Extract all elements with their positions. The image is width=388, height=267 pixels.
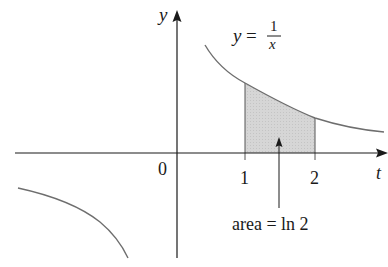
function-numerator: 1 [270, 18, 278, 34]
x-axis-label: t [376, 163, 382, 183]
x-tick-label-1: 1 [240, 168, 249, 188]
function-denominator: x [268, 36, 276, 52]
hyperbola-left-branch [18, 188, 128, 258]
y-axis-label: y [157, 4, 168, 25]
function-lhs: y [231, 25, 242, 46]
area-annotation: area = ln 2 [232, 214, 309, 234]
hyperbola-area-diagram: y t 0 1 2 y = 1 x area = ln 2 [0, 0, 388, 267]
function-equals: = [246, 25, 257, 46]
x-tick-label-2: 2 [310, 168, 319, 188]
function-label: y = 1 x [231, 18, 281, 52]
origin-label: 0 [158, 159, 167, 179]
